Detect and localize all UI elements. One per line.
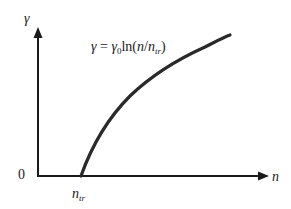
formula-n: n [137, 39, 144, 54]
gain-curve [81, 35, 230, 176]
threshold-label: ntr [72, 187, 85, 203]
threshold-n: n [72, 186, 79, 201]
formula-label: γ = γ0ln(n/ntr) [91, 40, 166, 56]
formula-equals: = [97, 39, 112, 54]
formula-close: ) [161, 39, 166, 54]
formula-ntr: n [148, 39, 155, 54]
threshold-sub: tr [79, 193, 85, 203]
formula-ln: ln( [121, 39, 137, 54]
y-axis-label: γ [24, 12, 30, 26]
origin-label: 0 [18, 168, 25, 182]
gain-diagram: γ γ = γ0ln(n/ntr) 0 ntr n [0, 0, 291, 209]
diagram-graphics [0, 0, 291, 209]
x-axis-label: n [272, 170, 279, 184]
x-axis-arrow-icon [258, 172, 269, 181]
y-axis-arrow-icon [34, 27, 43, 38]
